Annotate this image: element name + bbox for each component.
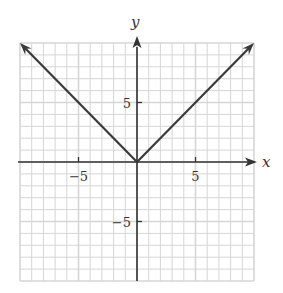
y-tick-label: −5: [112, 215, 131, 230]
x-tick-label: −5: [69, 169, 88, 184]
y-axis-label: y: [130, 13, 140, 31]
x-tick-label: 5: [191, 169, 199, 184]
curve-branch: [24, 47, 137, 162]
y-tick-label: 5: [123, 96, 131, 111]
curve-branch: [137, 47, 250, 162]
chart-canvas: x y −555−5: [0, 0, 283, 293]
axes: [18, 36, 257, 281]
x-axis-label: x: [262, 153, 271, 171]
